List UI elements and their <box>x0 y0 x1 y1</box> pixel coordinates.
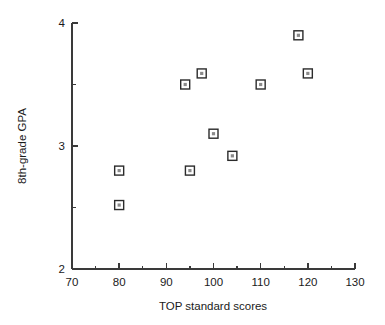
data-point <box>197 69 206 78</box>
marker-square-core <box>118 203 121 206</box>
x-tick-label: 100 <box>204 276 223 288</box>
x-tick-label: 130 <box>345 276 364 288</box>
data-point <box>256 80 265 89</box>
data-point <box>228 151 237 160</box>
marker-square-core <box>297 34 300 37</box>
marker-square-core <box>200 72 203 75</box>
marker-square-core <box>118 169 121 172</box>
scatter-chart: 708090100110120130 234 TOP standard scor… <box>0 0 385 325</box>
plot-area: 708090100110120130 234 TOP standard scor… <box>0 0 385 325</box>
x-axis-tick-labels: 708090100110120130 <box>66 276 365 288</box>
x-tick-label: 80 <box>113 276 126 288</box>
x-tick-label: 70 <box>66 276 79 288</box>
y-axis-title: 8th-grade GPA <box>16 108 28 184</box>
data-point <box>294 31 303 40</box>
y-axis-tick-labels: 234 <box>59 17 66 275</box>
data-point <box>185 166 194 175</box>
y-axis-ticks <box>72 23 78 269</box>
axes-group <box>72 23 355 269</box>
marker-square-core <box>212 132 215 135</box>
marker-square-core <box>231 154 234 157</box>
x-tick-label: 90 <box>160 276 173 288</box>
x-axis-ticks <box>72 263 355 269</box>
y-tick-label: 2 <box>59 263 65 275</box>
marker-square-core <box>306 72 309 75</box>
data-point <box>209 129 218 138</box>
data-point <box>303 69 312 78</box>
data-point <box>181 80 190 89</box>
data-point-markers <box>115 31 313 210</box>
data-point <box>115 166 124 175</box>
x-axis-title: TOP standard scores <box>159 300 267 312</box>
marker-square-core <box>184 83 187 86</box>
y-tick-label: 3 <box>59 140 65 152</box>
x-tick-label: 120 <box>298 276 317 288</box>
data-point <box>115 201 124 210</box>
x-tick-label: 110 <box>251 276 269 288</box>
y-tick-label: 4 <box>59 17 66 29</box>
marker-square-core <box>259 83 262 86</box>
marker-square-core <box>188 169 191 172</box>
